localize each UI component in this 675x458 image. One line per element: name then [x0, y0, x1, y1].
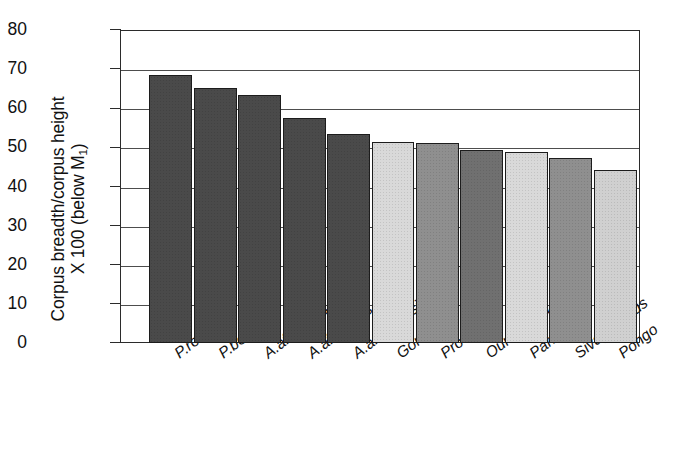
y-tick-mark-0 — [110, 342, 121, 343]
y-tick-label-20: 20 — [0, 256, 27, 274]
bar-chart-figure: Corpus breadth/corpus height X 100 (belo… — [0, 0, 675, 458]
y-tick-mark-60 — [110, 108, 121, 109]
y-tick-label-80: 80 — [0, 21, 27, 39]
bar-a-anamensis — [327, 134, 370, 343]
bar-p-boisei — [194, 88, 237, 343]
y-axis-title: Corpus breadth/corpus height X 100 (belo… — [46, 44, 92, 374]
y-tick-mark-50 — [110, 147, 121, 148]
y-axis-title-subscript: 1 — [77, 149, 89, 155]
bar-a-africanus — [238, 95, 281, 343]
y-tick-label-60: 60 — [0, 100, 27, 118]
y-tick-mark-30 — [110, 225, 121, 226]
y-axis-title-line-2: X 100 (below M1) — [68, 144, 90, 275]
y-tick-label-30: 30 — [0, 217, 27, 235]
y-axis-title-line-2-suffix: ) — [68, 144, 88, 150]
bar-proconsul — [416, 143, 459, 343]
y-tick-label-0: 0 — [0, 334, 27, 352]
y-tick-label-70: 70 — [0, 60, 27, 78]
y-axis-title-line-1: Corpus breadth/corpus height — [48, 97, 69, 322]
y-tick-label-10: 10 — [0, 295, 27, 313]
y-tick-label-50: 50 — [0, 139, 27, 157]
y-axis-title-line-2-prefix: X 100 (below M — [68, 156, 88, 275]
bar-p-robustus — [149, 75, 192, 343]
bar-a-afarensis — [283, 118, 326, 343]
y-tick-mark-10 — [110, 303, 121, 304]
y-tick-mark-20 — [110, 264, 121, 265]
y-tick-mark-80 — [110, 29, 121, 30]
bar-sivapithecus — [549, 158, 592, 343]
y-tick-label-40: 40 — [0, 178, 27, 196]
bars-group — [120, 30, 640, 343]
y-tick-mark-40 — [110, 186, 121, 187]
bar-pan — [505, 152, 548, 343]
bar-ouranopith- — [460, 150, 503, 343]
bar-pongo — [594, 170, 637, 343]
y-tick-mark-70 — [110, 68, 121, 69]
bar-gorilla — [372, 142, 415, 343]
